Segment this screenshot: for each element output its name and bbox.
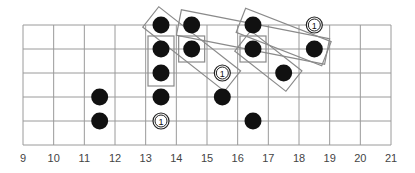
fret-number-label: 18	[293, 152, 305, 164]
fret-number-label: 19	[324, 152, 336, 164]
fret-number-label: 16	[232, 152, 244, 164]
fret-number-label: 10	[48, 152, 60, 164]
fret-number-label: 11	[79, 152, 90, 164]
fret-number-label: 15	[201, 152, 213, 164]
note-dot	[91, 113, 108, 130]
note-dot	[91, 89, 108, 106]
note-dot	[153, 17, 170, 34]
note-dot	[183, 17, 200, 34]
note-dot	[245, 17, 262, 34]
fret-number-label: 9	[20, 152, 26, 164]
fret-number-label: 12	[109, 152, 121, 164]
note-dot	[245, 41, 262, 58]
note-dot	[153, 89, 170, 106]
fret-number-label: 13	[140, 152, 152, 164]
fretboard-diagram: 9101112131415161718192021111	[0, 0, 415, 173]
root-note-label: 1	[158, 117, 163, 127]
note-dot	[306, 41, 323, 58]
root-note-label: 1	[312, 21, 317, 31]
root-note-label: 1	[220, 69, 225, 79]
note-dot	[153, 41, 170, 58]
note-dot	[275, 65, 292, 82]
fret-number-label: 17	[262, 152, 274, 164]
fret-number-label: 21	[385, 152, 397, 164]
note-dot	[214, 89, 231, 106]
fret-number-label: 20	[354, 152, 366, 164]
note-dot	[183, 41, 200, 58]
fret-number-label: 14	[170, 152, 182, 164]
note-dot	[245, 113, 262, 130]
note-dot	[153, 65, 170, 82]
